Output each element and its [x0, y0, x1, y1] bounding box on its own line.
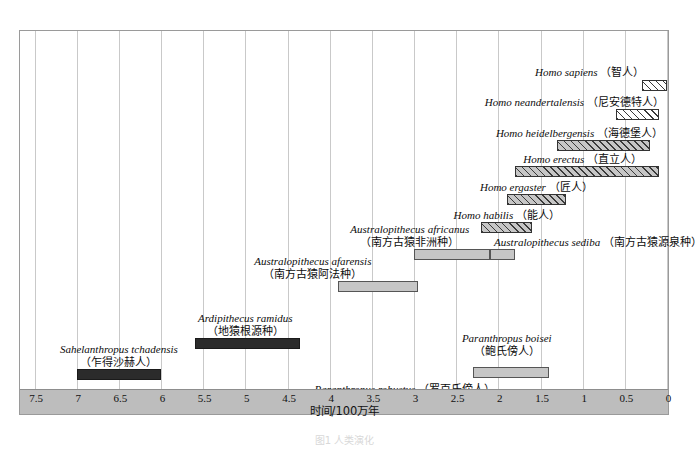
taxon-label: Homo ergaster （匠人）: [480, 181, 593, 194]
gridline: [35, 31, 36, 389]
taxon-label-line: Ardipithecus ramidus: [198, 312, 293, 325]
taxon-label-line: （地猿根源种）: [198, 325, 293, 338]
timeline-bar: [77, 369, 161, 380]
timeline-bar: [195, 338, 300, 349]
taxon-label-line: Australopithecus afarensis: [254, 255, 371, 268]
taxon-label-line: Australopithecus sediba （南方古猿源泉种）: [494, 236, 699, 249]
taxon-name-latin: Homo ergaster: [480, 181, 549, 193]
taxon-name-latin: Homo heidelbergensis: [496, 127, 597, 139]
taxon-label: Paranthropus boisei（鲍氏傍人）: [462, 332, 552, 358]
x-axis-title: 时间/100万年: [0, 402, 689, 418]
gridline: [625, 31, 626, 389]
timeline-bar: [515, 166, 658, 177]
gridline: [330, 31, 331, 389]
taxon-label-line: Paranthropus boisei: [462, 332, 552, 345]
taxon-label: Homo neandertalensis （尼安德特人）: [485, 96, 664, 109]
taxon-name-latin: Paranthropus boisei: [462, 332, 552, 344]
taxon-name-cn: （南方古猿阿法种）: [263, 268, 362, 281]
taxon-label-line: Homo erectus （直立人）: [523, 153, 642, 166]
taxon-label-line: （乍得沙赫人）: [60, 356, 178, 369]
timeline-bar: [414, 249, 490, 260]
taxon-name-latin: Australopithecus sediba: [494, 236, 603, 248]
gridline: [667, 31, 668, 389]
taxon-name-latin: Ardipithecus ramidus: [198, 312, 293, 324]
taxon-label-line: Homo heidelbergensis （海德堡人）: [496, 127, 663, 140]
gridline: [119, 31, 120, 389]
gridline: [414, 31, 415, 389]
taxon-name-cn: （鲍氏傍人）: [474, 345, 540, 358]
taxon-name-latin: Homo sapiens: [535, 66, 600, 78]
taxon-label: Australopithecus africanus（南方古猿非洲种）: [350, 223, 469, 249]
timeline-bar: [338, 281, 418, 292]
taxon-name-cn: （乍得沙赫人）: [80, 356, 157, 369]
taxon-label-line: Homo sapiens （智人）: [535, 66, 644, 79]
gridline: [77, 31, 78, 389]
timeline-bar: [473, 367, 549, 378]
plot-area: Homo sapiens （智人）Homo neandertalensis （尼…: [19, 31, 668, 389]
gridline: [372, 31, 373, 389]
taxon-name-cn: （南方古猿非洲种）: [360, 236, 459, 249]
taxon-name-latin: Homo habilis: [454, 209, 516, 221]
taxon-name-cn: （能人）: [516, 209, 560, 222]
taxon-label-line: （鲍氏傍人）: [462, 345, 552, 358]
taxon-label: Homo heidelbergensis （海德堡人）: [496, 127, 663, 140]
taxon-label-line: Homo neandertalensis （尼安德特人）: [485, 96, 664, 109]
timeline-bar: [642, 80, 667, 91]
taxon-label-line: Homo ergaster （匠人）: [480, 181, 593, 194]
taxon-label: Homo erectus （直立人）: [523, 153, 642, 166]
taxon-label: Ardipithecus ramidus（地猿根源种）: [198, 312, 293, 338]
taxon-name-cn: （地猿根源种）: [207, 325, 284, 338]
taxon-label-line: Homo habilis （能人）: [454, 209, 560, 222]
timeline-bar: [557, 140, 650, 151]
taxon-name-latin: Australopithecus africanus: [350, 223, 469, 235]
taxon-label: Homo sapiens （智人）: [535, 66, 644, 79]
timeline-bar: [616, 109, 658, 120]
taxon-label: Sahelanthropus tchadensis（乍得沙赫人）: [60, 343, 178, 369]
taxon-name-latin: Sahelanthropus tchadensis: [60, 343, 178, 355]
timeline-bar: [490, 249, 515, 260]
taxon-name-latin: Homo neandertalensis: [485, 96, 587, 108]
taxon-name-cn: （智人）: [600, 66, 644, 79]
taxon-label-line: Australopithecus africanus: [350, 223, 469, 236]
taxon-label: Australopithecus afarensis（南方古猿阿法种）: [254, 255, 371, 281]
taxon-name-latin: Australopithecus afarensis: [254, 255, 371, 267]
taxon-name-cn: （南方古猿源泉种）: [603, 236, 699, 249]
taxon-name-cn: （海德堡人）: [597, 127, 663, 140]
timeline-bar: [507, 194, 566, 205]
taxon-label: Australopithecus sediba （南方古猿源泉种）: [494, 236, 699, 249]
taxon-name-latin: Homo erectus: [523, 153, 587, 165]
taxon-label-line: Sahelanthropus tchadensis: [60, 343, 178, 356]
taxon-name-cn: （匠人）: [549, 181, 593, 194]
taxon-label-line: （南方古猿非洲种）: [350, 236, 469, 249]
gridline: [161, 31, 162, 389]
gridline: [583, 31, 584, 389]
taxon-name-cn: （尼安德特人）: [587, 96, 664, 109]
taxon-label-line: （南方古猿阿法种）: [254, 268, 371, 281]
figure-caption: 图1 人类演化: [0, 432, 689, 447]
timeline-bar: [481, 222, 532, 233]
taxon-label: Homo habilis （能人）: [454, 209, 560, 222]
taxon-name-cn: （直立人）: [587, 153, 642, 166]
